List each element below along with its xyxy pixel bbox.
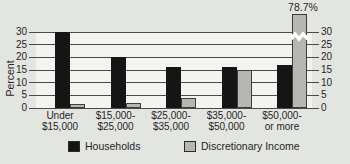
y-tick-label-left: 20: [2, 51, 27, 63]
y-axis-tick-left: [29, 108, 36, 109]
y-tick-label-right: 5: [321, 89, 346, 101]
x-category-label-line: $15,000-: [84, 111, 148, 122]
x-category-label-3: $35,000-$50,000: [195, 111, 259, 132]
broken-bar-value-label: 78.7%: [282, 1, 324, 13]
x-category-label-0: Under$15,000: [28, 111, 92, 132]
gridline: [36, 32, 312, 33]
y-axis-tick-right: [312, 32, 319, 33]
y-tick-label-right: 30: [321, 26, 346, 38]
y-axis-tick-right: [312, 70, 319, 71]
legend-swatch-discretionary-income: [184, 141, 196, 152]
y-axis-tick-right: [312, 95, 319, 96]
bar-discretionary-income-0: [70, 104, 85, 108]
x-category-label-line: $15,000: [28, 122, 92, 133]
y-tick-label-right: 15: [321, 64, 346, 76]
legend-swatch-households: [68, 141, 80, 152]
x-category-label-1: $15,000-$25,000: [84, 111, 148, 132]
legend-label-discretionary-income: Discretionary Income: [201, 140, 300, 152]
y-tick-label-left: 0: [2, 102, 27, 114]
axis-break-icon: [291, 28, 308, 38]
y-tick-label-right: 20: [321, 51, 346, 63]
bar-households-3: [222, 67, 237, 108]
bar-discretionary-income-2: [181, 98, 196, 108]
gridline: [36, 57, 312, 58]
y-axis-tick-left: [29, 70, 36, 71]
x-category-label-line: or more: [250, 122, 314, 133]
x-category-label-2: $25,000-$35,000: [139, 111, 203, 132]
x-category-label-line: $25,000-: [139, 111, 203, 122]
y-axis-tick-right: [312, 57, 319, 58]
x-category-label-line: $35,000-: [195, 111, 259, 122]
y-tick-label-left: 10: [2, 77, 27, 89]
y-tick-label-right: 10: [321, 77, 346, 89]
y-axis-tick-left: [29, 32, 36, 33]
bar-discretionary-income-3: [237, 70, 252, 108]
bar-households-1: [111, 57, 126, 108]
y-axis-tick-right: [312, 82, 319, 83]
y-tick-label-right: 0: [321, 102, 346, 114]
y-axis-tick-left: [29, 95, 36, 96]
x-category-label-line: $25,000: [84, 122, 148, 133]
y-tick-label-left: 30: [2, 26, 27, 38]
bar-households-0: [55, 32, 70, 108]
y-tick-label-left: 5: [2, 89, 27, 101]
y-tick-label-left: 15: [2, 64, 27, 76]
y-axis-tick-left: [29, 44, 36, 45]
bar-chart: Percent 78.7% Households Discretionary I…: [0, 0, 350, 164]
y-axis-tick-right: [312, 108, 319, 109]
bar-households-4: [277, 65, 292, 108]
x-category-label-line: $50,000-: [250, 111, 314, 122]
bar-households-2: [166, 67, 181, 108]
bar-discretionary-income-1: [126, 103, 141, 108]
y-tick-label-left: 25: [2, 39, 27, 51]
x-category-label-line: Under: [28, 111, 92, 122]
y-axis-tick-left: [29, 82, 36, 83]
gridline: [36, 44, 312, 45]
y-tick-label-right: 25: [321, 39, 346, 51]
x-category-label-4: $50,000-or more: [250, 111, 314, 132]
x-category-label-line: $35,000: [139, 122, 203, 133]
x-category-label-line: $50,000: [195, 122, 259, 133]
legend-label-households: Households: [85, 140, 140, 152]
y-axis-tick-left: [29, 57, 36, 58]
y-axis-tick-right: [312, 44, 319, 45]
